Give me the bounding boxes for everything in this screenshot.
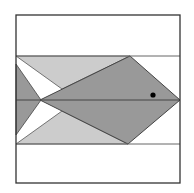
fish-eye-dot [150, 92, 155, 97]
fish-figure-svg [0, 0, 194, 193]
fish-diagram [0, 0, 194, 193]
